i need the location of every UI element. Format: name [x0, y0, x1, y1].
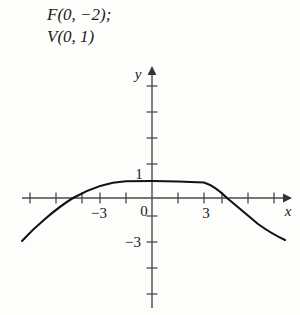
x-tick-label-pos3: 3 — [202, 205, 210, 221]
x-axis-label: x — [284, 203, 292, 219]
y-tick-label-1: 1 — [135, 166, 143, 182]
figure-container: F(0, −2); V(0, 1) — [0, 0, 300, 315]
x-tick-label-neg3: −3 — [91, 205, 107, 221]
y-axis-arrowhead — [148, 66, 157, 75]
x-axis-arrowhead — [283, 194, 292, 203]
parabola-plot: y x 0 −3 3 1 −3 — [0, 0, 300, 315]
origin-label: 0 — [140, 203, 148, 219]
y-tick-label-neg3: −3 — [125, 234, 141, 250]
y-axis-label: y — [133, 66, 142, 82]
parabola-curve — [22, 181, 285, 241]
